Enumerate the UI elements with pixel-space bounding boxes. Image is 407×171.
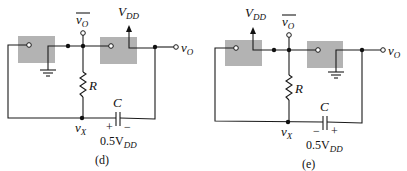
vo-terminal [381,48,386,53]
vo-bar-label: vO [76,12,89,29]
resistor-label: R [294,81,303,96]
vo-bar-terminal [287,33,292,38]
vo-label: vO [181,40,194,57]
junction-dot [360,48,364,52]
cap-minus-sign: − [313,124,320,138]
vdd-arrow-icon [126,25,132,32]
junction-dot [287,48,291,52]
resistor-icon [286,75,292,100]
cap-voltage-label: 0.5VDD [100,134,137,150]
resistor-label: R [88,78,97,93]
vo-label: vO [388,43,401,60]
circuit-figure: vO VDD vO R C vX + − 0.5VDD (d) [0,0,407,171]
inverter-block-1 [18,36,55,63]
ground-icon [40,70,56,76]
junction-dot [81,44,85,48]
panel-caption: (d) [95,153,109,167]
panel-e: VDD vO vO R C vX − + 0.5VDD (e) [215,5,401,171]
cap-plus-sign: + [106,120,113,134]
inverter-block-2 [307,41,343,68]
vx-label: vX [281,124,293,141]
junction-dot [66,44,70,48]
resistor-icon [80,72,86,97]
inverter2-input-terminal [109,44,114,49]
inverter2-output-wire [336,50,383,72]
panel-caption: (e) [302,157,315,171]
capacitor-icon [116,112,120,126]
vdd-label: VDD [245,5,266,22]
inverter-block-2 [100,37,137,64]
cap-voltage-label: 0.5VDD [306,138,343,154]
cap-plus-sign: + [331,124,338,138]
ground-icon [328,72,344,78]
vdd-label: VDD [118,4,139,21]
inverter1-input-terminal [27,43,32,48]
inverter-block-1 [225,40,262,66]
junction-dot [272,48,276,52]
inverter1-input-terminal [234,46,239,51]
panel-d: vO VDD vO R C vX + − 0.5VDD (d) [8,4,194,167]
junction-dot [153,45,157,49]
vdd-arrow-icon [250,27,256,34]
vo-bar-terminal [81,31,86,36]
vo-terminal [174,45,179,50]
capacitor-icon [323,116,327,130]
capacitor-label: C [320,99,329,114]
vo-bar-label: vO [282,14,295,31]
inverter2-input-terminal [316,48,321,53]
vx-label: vX [75,120,87,137]
capacitor-label: C [113,95,122,110]
cap-minus-sign: − [124,120,131,134]
